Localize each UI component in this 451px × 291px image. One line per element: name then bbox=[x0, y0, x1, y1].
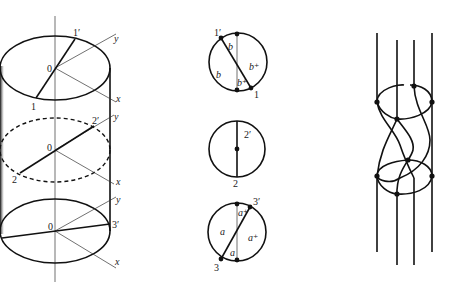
disk-top-region-b-left: b bbox=[216, 69, 221, 80]
disk-top: 1′ 1 b b b⁺ b⁺ bbox=[209, 27, 267, 100]
cylinder-section-top: 0 1 1′ y x bbox=[0, 27, 121, 112]
figure-canvas: 0 1 1′ y x 0 2 2′ y x 0 3′ y x bbox=[0, 0, 451, 291]
disk-middle: 2′ 2 bbox=[209, 121, 265, 189]
braid-ring-top-front bbox=[377, 102, 432, 119]
braid-node bbox=[405, 157, 410, 162]
disk-panel: 1′ 1 b b b⁺ b⁺ 2′ 2 3′ 3 a⁺ a bbox=[208, 27, 267, 273]
top-end-label: 1 bbox=[31, 101, 36, 112]
top-x-label: x bbox=[115, 93, 121, 104]
braid-node bbox=[374, 99, 379, 104]
disk-middle-end-prime-label: 2′ bbox=[244, 129, 251, 140]
disk-bottom-node bbox=[235, 202, 240, 207]
cylinder-left-edge bbox=[0, 66, 4, 234]
disk-bottom-node bbox=[219, 257, 224, 262]
bottom-end-prime-label: 3′ bbox=[112, 219, 119, 230]
disk-top-node bbox=[235, 32, 240, 37]
disk-top-region-b-top: b bbox=[228, 41, 233, 52]
top-end-prime-label: 1′ bbox=[73, 27, 80, 38]
disk-middle-center bbox=[235, 147, 240, 152]
disk-bottom-end-label: 3 bbox=[214, 262, 219, 273]
bottom-origin-label: 0 bbox=[48, 221, 53, 232]
braid-node bbox=[394, 116, 399, 121]
disk-bottom-region-aplus-right: a⁺ bbox=[248, 232, 258, 243]
middle-x-label: x bbox=[115, 176, 121, 187]
bottom-y-label: y bbox=[115, 194, 121, 205]
disk-top-node bbox=[235, 88, 240, 93]
disk-bottom-node bbox=[248, 205, 253, 210]
braid-node bbox=[429, 99, 434, 104]
cylinder-panel: 0 1 1′ y x 0 2 2′ y x 0 3′ y x bbox=[0, 16, 121, 282]
middle-origin-label: 0 bbox=[47, 142, 52, 153]
middle-x-axis bbox=[55, 150, 114, 184]
middle-y-label: y bbox=[113, 111, 119, 122]
disk-top-node bbox=[249, 86, 254, 91]
disk-top-end-label: 1 bbox=[254, 89, 259, 100]
middle-end-label: 2 bbox=[12, 174, 17, 185]
cylinder-section-bottom: 0 3′ y x bbox=[0, 194, 121, 268]
top-y-axis bbox=[55, 34, 116, 68]
top-y-label: y bbox=[113, 33, 119, 44]
braid-panel bbox=[374, 33, 434, 265]
top-origin-label: 0 bbox=[47, 63, 52, 74]
cylinder-section-middle: 0 2 2′ y x bbox=[0, 111, 121, 187]
braid-node bbox=[394, 191, 399, 196]
disk-bottom: 3′ 3 a⁺ a a⁺ a bbox=[208, 196, 266, 273]
disk-top-region-bplus-right: b⁺ bbox=[249, 61, 259, 72]
bottom-x-label: x bbox=[114, 256, 120, 267]
braid-node bbox=[374, 173, 379, 178]
braid-twist-e bbox=[377, 119, 397, 176]
bottom-chord bbox=[2, 224, 110, 238]
disk-bottom-region-a-left: a bbox=[220, 226, 225, 237]
braid-ring-bottom-front bbox=[377, 176, 432, 194]
disk-bottom-node bbox=[235, 258, 240, 263]
bottom-y-axis bbox=[55, 197, 116, 231]
middle-end-prime-label: 2′ bbox=[92, 115, 99, 126]
top-x-axis bbox=[55, 68, 116, 102]
braid-ring-top-back-left bbox=[377, 85, 404, 102]
disk-bottom-region-a-bottom: a bbox=[230, 247, 235, 258]
disk-top-end-prime-label: 1′ bbox=[214, 27, 221, 38]
disk-top-region-bplus-bottom: b⁺ bbox=[237, 77, 247, 88]
disk-bottom-region-aplus-top: a⁺ bbox=[238, 207, 248, 218]
top-chord bbox=[36, 39, 75, 98]
disk-middle-end-label: 2 bbox=[233, 178, 238, 189]
braid-node bbox=[411, 83, 416, 88]
braid-node bbox=[429, 173, 434, 178]
disk-bottom-end-prime-label: 3′ bbox=[253, 196, 260, 207]
